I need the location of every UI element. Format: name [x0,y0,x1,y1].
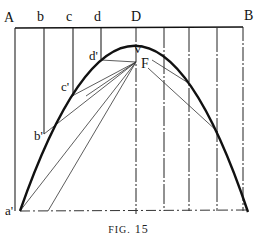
figure-caption: FIG. 15 [0,222,257,237]
caption-number: 15 [135,222,149,236]
caption-prefix: FIG. [108,224,131,235]
label-b: b [37,9,44,24]
label-d: d [94,9,101,24]
label-d-prime: d' [89,48,98,63]
baseline [20,210,248,211]
parabola-curve [20,46,248,212]
top-line-AB [15,27,243,28]
label-F: F [141,56,149,71]
label-B: B [244,8,253,23]
parabola-construction-diagram: A b c d D B V F d' c' b' a' [0,0,257,240]
label-c: c [66,9,72,24]
label-D: D [131,9,141,24]
label-c-prime: c' [61,79,69,94]
label-b-prime: b' [34,128,43,143]
label-A: A [4,10,15,25]
label-a-prime: a' [5,203,13,218]
label-V: V [133,41,143,56]
